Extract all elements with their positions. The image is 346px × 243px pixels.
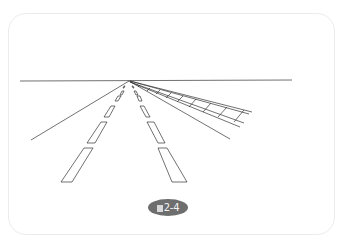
figure-caption-text: 2-4 <box>164 202 179 213</box>
road-edge-left <box>31 81 129 140</box>
horizon-line <box>20 80 292 81</box>
lane-dashes-left <box>61 86 125 182</box>
railway-track <box>130 81 252 127</box>
figure-caption-badge: 2-4 <box>148 199 188 216</box>
road-edge-right <box>129 81 230 139</box>
figure-char-icon <box>157 205 163 212</box>
